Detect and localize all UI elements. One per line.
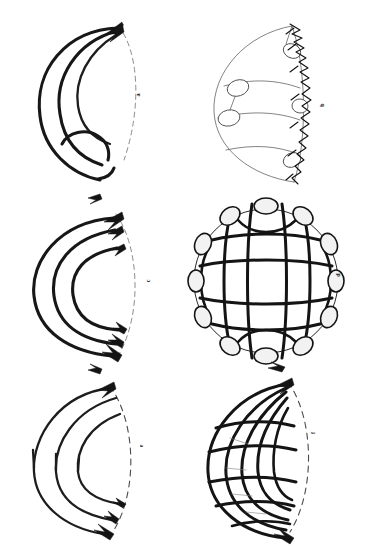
node-ellipse-1 [225, 77, 251, 99]
panel-label-b: b [319, 103, 325, 106]
panel-f-drawing [196, 372, 341, 554]
free-end-outer [33, 450, 34, 468]
panel-label-c: c [145, 280, 151, 283]
cap-arc-bottom [238, 330, 296, 342]
arc-inner [73, 248, 118, 330]
panel-a: a [18, 8, 158, 188]
cap-arc-top [238, 220, 296, 232]
panel-f: f [196, 372, 341, 554]
rim-node-n [254, 198, 278, 214]
rim-node-s [254, 348, 278, 364]
outer-rim-dashed [118, 26, 136, 160]
rim-node-nne [289, 203, 316, 229]
panel-e-drawing [18, 372, 158, 554]
arc-inner [77, 35, 116, 144]
panel-d: d [186, 186, 346, 376]
parallel-2 [209, 446, 296, 452]
arrowhead-top-inner [112, 244, 126, 256]
arrowhead-bottom-middle [108, 334, 124, 348]
parallel-lower [226, 147, 298, 154]
rim-node-ese [317, 304, 340, 330]
rim-node-wsw [191, 304, 214, 330]
panel-label-f: f [310, 432, 316, 434]
panel-b-drawing [196, 8, 346, 188]
hemisphere-outline [214, 26, 294, 182]
arc-outer [34, 388, 110, 534]
arc-middle [59, 31, 117, 165]
panel-label-d: d [335, 273, 341, 276]
node-ellipse-2 [217, 108, 242, 128]
stray-mark-top [88, 194, 102, 204]
arc-inner [78, 414, 120, 504]
free-end-inner [78, 458, 79, 471]
rim-node-w [188, 270, 204, 292]
rim-node-sse [289, 333, 316, 359]
arrowhead-top [98, 382, 116, 398]
arrowhead-bottom-inner [113, 322, 127, 334]
panel-c: c [18, 192, 158, 378]
parallel-3 [209, 478, 296, 483]
arrowhead-bottom-outer [94, 524, 114, 540]
arrowhead-bottom-outer [102, 344, 122, 362]
parallel-2 [200, 260, 332, 266]
panel-label-e: e [138, 445, 144, 448]
panel-a-drawing [18, 8, 158, 188]
panel-d-drawing [186, 186, 346, 376]
node-ellipse-4 [291, 98, 309, 114]
parallel-1 [212, 234, 320, 240]
panel-label-a: a [135, 94, 141, 97]
figure-sheet: a b [0, 0, 371, 559]
parallel-3 [200, 298, 332, 304]
panel-b: b [196, 8, 346, 188]
outer-rim-dashed [110, 386, 131, 530]
arrowhead-bottom-middle [104, 511, 119, 524]
panel-e: e [18, 372, 158, 554]
branch-link-top [286, 26, 292, 44]
arrowhead-bottom-inner [113, 498, 126, 508]
panel-c-drawing [18, 192, 158, 378]
arc-bottom-tail [98, 168, 114, 179]
